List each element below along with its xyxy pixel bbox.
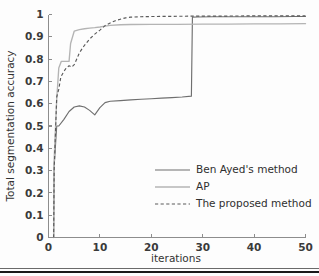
x-tick-label: 50 <box>298 241 313 253</box>
y-tick-label: 0.2 <box>25 187 44 199</box>
legend-label-ben-ayed: Ben Ayed's method <box>196 163 298 175</box>
y-axis-label: Total segmentation accuracy <box>4 50 16 202</box>
y-tick-label: 0.4 <box>25 142 44 154</box>
y-tick-label: 0.1 <box>25 209 44 221</box>
x-tick-label: 0 <box>45 241 52 253</box>
y-tick-label: 0.8 <box>25 53 44 65</box>
chart-legend: Ben Ayed's methodAPThe proposed method <box>155 163 312 209</box>
y-axis-ticks: 00.10.20.30.40.50.60.70.80.91 <box>25 8 52 243</box>
x-axis-label: iterations <box>151 252 201 264</box>
chart-figure: 00.10.20.30.40.50.60.70.80.91 0102030405… <box>0 0 319 276</box>
legend-label-ap: AP <box>196 180 210 192</box>
x-tick-label: 10 <box>93 241 108 253</box>
x-tick-label: 20 <box>144 241 159 253</box>
x-tick-label: 30 <box>195 241 210 253</box>
line-chart: 00.10.20.30.40.50.60.70.80.91 0102030405… <box>0 0 319 276</box>
page-rule-thin <box>0 268 319 269</box>
page-rule-thick <box>0 271 319 273</box>
x-axis-ticks: 01020304050 <box>45 234 313 253</box>
y-tick-label: 0.6 <box>25 97 44 109</box>
y-tick-label: 0.7 <box>25 75 44 87</box>
y-tick-label: 1 <box>36 8 43 20</box>
y-tick-label: 0.3 <box>25 164 44 176</box>
x-tick-label: 40 <box>247 241 262 253</box>
legend-label-proposed: The proposed method <box>195 197 312 209</box>
y-tick-label: 0.5 <box>25 120 44 132</box>
y-tick-label: 0.9 <box>25 30 44 42</box>
y-tick-label: 0 <box>36 231 43 243</box>
